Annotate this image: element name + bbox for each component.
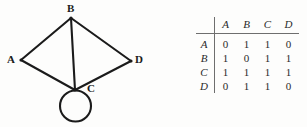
matrix-row-c: C1111 bbox=[196, 65, 299, 79]
figure-canvas: ABCD ABCD A0110B1011C1111D0110 bbox=[0, 0, 307, 127]
matrix-cell-c-c: 1 bbox=[257, 65, 278, 79]
matrix-cell-d-d: 0 bbox=[278, 79, 299, 93]
matrix-cell-d-b: 1 bbox=[236, 79, 257, 93]
matrix-cell-d-a: 0 bbox=[215, 79, 237, 93]
graph-diagram: ABCD bbox=[0, 0, 175, 127]
matrix-cell-d-c: 1 bbox=[257, 79, 278, 93]
graph-edge-a-c bbox=[21, 60, 75, 90]
matrix-cell-c-d: 1 bbox=[278, 65, 299, 79]
matrix-col-header-c: C bbox=[257, 17, 278, 34]
matrix-col-header-a: A bbox=[215, 17, 237, 34]
vertex-label-d: D bbox=[135, 54, 143, 65]
vertex-label-c: C bbox=[87, 83, 95, 94]
self-loop-c bbox=[60, 91, 91, 122]
graph-edge-c-d bbox=[75, 61, 131, 90]
matrix-col-header-d: D bbox=[278, 17, 299, 34]
graph-edge-b-c bbox=[71, 18, 75, 90]
adjacency-matrix: ABCD A0110B1011C1111D0110 bbox=[196, 17, 304, 115]
vertex-label-a: A bbox=[7, 54, 15, 65]
matrix-cell-a-b: 1 bbox=[236, 34, 257, 52]
matrix-row-a: A0110 bbox=[196, 34, 299, 52]
matrix-cell-b-d: 1 bbox=[278, 51, 299, 65]
matrix-col-header-b: B bbox=[236, 17, 257, 34]
matrix-cell-c-b: 1 bbox=[236, 65, 257, 79]
edge-group bbox=[21, 18, 131, 90]
graph-vertex-b bbox=[69, 16, 72, 19]
matrix-row-b: B1011 bbox=[196, 51, 299, 65]
graph-vertex-d bbox=[129, 59, 132, 62]
matrix-cell-a-c: 1 bbox=[257, 34, 278, 52]
matrix-cell-b-b: 0 bbox=[236, 51, 257, 65]
vertex-dot-group bbox=[19, 16, 132, 91]
vertex-label-b: B bbox=[67, 3, 74, 14]
matrix-cell-b-a: 1 bbox=[215, 51, 237, 65]
matrix-cell-a-d: 0 bbox=[278, 34, 299, 52]
matrix-row-d: D0110 bbox=[196, 79, 299, 93]
matrix-corner-cell bbox=[196, 17, 215, 34]
graph-vertex-c bbox=[73, 88, 76, 91]
matrix-cell-a-a: 0 bbox=[215, 34, 237, 52]
self-loop-group bbox=[60, 91, 91, 122]
matrix-head: ABCD bbox=[196, 17, 299, 34]
graph-vertex-a bbox=[19, 58, 22, 61]
matrix-row-header-a: A bbox=[196, 34, 215, 52]
matrix-body: A0110B1011C1111D0110 bbox=[196, 34, 299, 94]
graph-edge-a-b bbox=[21, 18, 71, 60]
matrix-row-header-c: C bbox=[196, 65, 215, 79]
matrix-header-row: ABCD bbox=[196, 17, 299, 34]
matrix-row-header-b: B bbox=[196, 51, 215, 65]
matrix-row-header-d: D bbox=[196, 79, 215, 93]
graph-edge-b-d bbox=[71, 18, 131, 61]
matrix-cell-c-a: 1 bbox=[215, 65, 237, 79]
graph-svg bbox=[0, 0, 175, 127]
matrix-cell-b-c: 1 bbox=[257, 51, 278, 65]
matrix-table: ABCD A0110B1011C1111D0110 bbox=[196, 17, 299, 93]
